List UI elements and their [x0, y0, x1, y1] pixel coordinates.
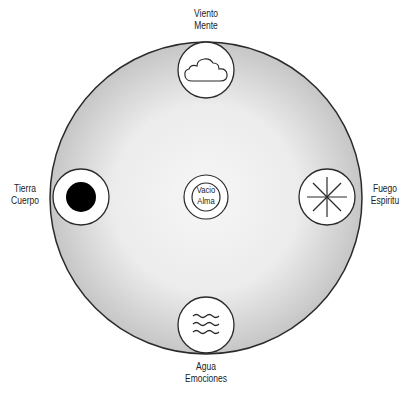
label-tierra: Tierra Cuerpo — [4, 183, 47, 207]
label-viento: Viento Mente — [181, 8, 232, 32]
element-fuego — [299, 169, 355, 225]
element-viento — [178, 42, 234, 98]
element-tierra — [53, 169, 109, 225]
label-fuego: Fuego Espiritu — [364, 183, 407, 207]
label-vacio: Vacio Alma — [189, 185, 223, 207]
label-agua: Agua Emociones — [172, 361, 240, 385]
asterisk-icon — [307, 177, 347, 217]
filled-dot-icon — [66, 182, 96, 212]
element-agua — [178, 297, 234, 353]
